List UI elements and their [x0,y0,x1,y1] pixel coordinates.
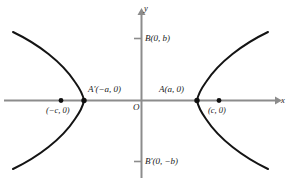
vertex-right-label: A(a, 0) [159,85,184,94]
focus-left-label: (−c, 0) [46,106,70,115]
hyperbola-figure: x y O B(0, b) B'(0, −b) A'(−a, 0) A(a, 0… [0,0,289,184]
focus-left-point [59,98,64,103]
x-axis-label: x [281,96,285,105]
covertex-top-label: B(0, b) [145,34,170,43]
covertex-bottom-label: B'(0, −b) [145,157,178,166]
vertex-left-label: A'(−a, 0) [88,85,121,94]
origin-label: O [133,103,140,112]
x-axis [4,97,282,105]
focus-right-label: (c, 0) [208,106,226,115]
vertex-right-point [194,98,199,103]
vertex-left-point [81,98,86,103]
y-axis-label: y [144,4,148,13]
focus-right-point [217,98,222,103]
